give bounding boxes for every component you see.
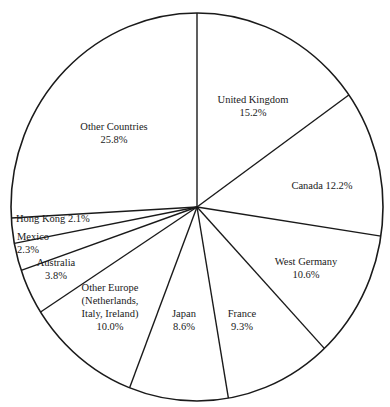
slice-label-canada: Canada 12.2% <box>291 180 352 191</box>
slice-label-hong-kong: Hong Kong 2.1% <box>16 213 90 224</box>
pie-chart: United Kingdom15.2%Canada 12.2%West Germ… <box>0 0 390 407</box>
slice-label-line: Canada 12.2% <box>291 180 352 191</box>
slice-label-line: (Netherlands, <box>82 295 139 307</box>
slice-label-line: 10.0% <box>96 321 123 332</box>
slice-label-line: 25.8% <box>100 134 127 145</box>
slice-label-line: Other Europe <box>82 282 139 293</box>
slice-label-line: Other Countries <box>80 121 147 132</box>
slice-label-line: Italy, Ireland) <box>81 308 139 320</box>
slice-label-line: 3.8% <box>45 270 67 281</box>
slice-label-line: 9.3% <box>231 321 253 332</box>
slice-label-line: Mexico <box>17 231 49 242</box>
slice-label-line: 2.3% <box>17 244 39 255</box>
slice-label-line: 8.6% <box>173 321 195 332</box>
slice-label-line: West Germany <box>275 256 338 267</box>
slice-label-line: Australia <box>37 257 76 268</box>
slice-label-line: 10.6% <box>292 269 319 280</box>
slice-label-line: United Kingdom <box>218 94 289 105</box>
slice-label-line: France <box>228 308 257 319</box>
slice-label-line: 15.2% <box>239 107 266 118</box>
slice-label-line: Hong Kong 2.1% <box>16 213 90 224</box>
slice-label-line: Japan <box>172 308 197 319</box>
